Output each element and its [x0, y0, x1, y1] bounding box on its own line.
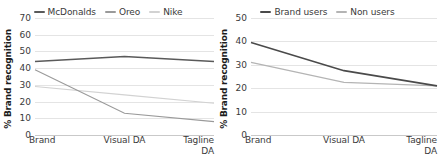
legend-item-non-users[interactable]: Non users	[336, 7, 394, 17]
series-line-mcdonalds	[35, 56, 214, 61]
legend-item-oreo[interactable]: Oreo	[105, 7, 140, 17]
y-axis-title-right-text: % Brand recognition	[219, 29, 229, 129]
plot-area-left: 70 60 50 40 30 20 10 0	[14, 18, 214, 135]
legend-item-nike[interactable]: Nike	[149, 7, 182, 17]
legend-swatch-oreo	[105, 11, 116, 13]
y-axis-ticks-left: 70 60 50 40 30 20 10 0	[14, 18, 33, 135]
y-axis-title-left: % Brand recognition	[1, 20, 14, 138]
dual-line-chart-figure: McDonalds Oreo Nike % Brand recognition …	[0, 0, 439, 167]
y-tick-left-10: 10	[20, 114, 31, 123]
legend-label-nike: Nike	[163, 7, 182, 17]
legend-swatch-non-users	[336, 11, 347, 13]
legend-label-brand-users: Brand users	[274, 7, 327, 17]
chart-panel-brands: McDonalds Oreo Nike % Brand recognition …	[0, 0, 216, 167]
series-svg-right	[251, 18, 437, 135]
y-tick-right-10: 10	[236, 107, 247, 116]
y-axis-ticks-right: 50 40 30 20 10 0	[230, 18, 249, 135]
y-tick-right-40: 40	[236, 37, 247, 46]
y-tick-left-60: 60	[20, 30, 31, 39]
y-axis-title-left-text: % Brand recognition	[3, 29, 13, 129]
legend-item-mcdonalds[interactable]: McDonalds	[34, 7, 96, 17]
series-line-brand-users	[251, 43, 437, 86]
x-label-left-tagline-da: Tagline DA	[183, 135, 214, 157]
plot-canvas-right	[251, 18, 437, 135]
x-label-right-visual-da: Visual DA	[323, 135, 365, 146]
legend-swatch-mcdonalds	[34, 11, 45, 13]
y-tick-right-20: 20	[236, 84, 247, 93]
y-tick-left-30: 30	[20, 80, 31, 89]
y-axis-title-right: % Brand recognition	[217, 20, 230, 138]
legend-label-mcdonalds: McDonalds	[48, 7, 96, 17]
legend-swatch-nike	[149, 11, 160, 13]
legend-label-non-users: Non users	[350, 7, 394, 17]
legend-item-brand-users[interactable]: Brand users	[260, 7, 327, 17]
legend-label-oreo: Oreo	[119, 7, 140, 17]
x-axis-labels-right: Brand Visual DA Tagline DA	[251, 135, 437, 165]
series-svg-left	[35, 18, 214, 135]
x-label-right-brand: Brand	[245, 135, 271, 146]
series-line-nike	[35, 87, 214, 104]
series-line-non-users	[251, 62, 437, 85]
series-line-oreo	[35, 70, 214, 122]
y-tick-right-30: 30	[236, 60, 247, 69]
y-tick-left-50: 50	[20, 47, 31, 56]
legend-swatch-brand-users	[260, 11, 271, 13]
y-tick-left-40: 40	[20, 64, 31, 73]
y-tick-left-70: 70	[20, 14, 31, 23]
plot-canvas-left	[35, 18, 214, 135]
x-axis-labels-left: Brand Visual DA Tagline DA	[35, 135, 214, 165]
x-label-right-tagline-da: Tagline DA	[406, 135, 437, 157]
plot-area-right: 50 40 30 20 10 0	[230, 18, 437, 135]
y-tick-right-50: 50	[236, 14, 247, 23]
chart-panel-users: Brand users Non users % Brand recognitio…	[216, 0, 439, 167]
y-tick-left-20: 20	[20, 97, 31, 106]
x-label-left-brand: Brand	[29, 135, 55, 146]
x-label-left-visual-da: Visual DA	[104, 135, 146, 146]
